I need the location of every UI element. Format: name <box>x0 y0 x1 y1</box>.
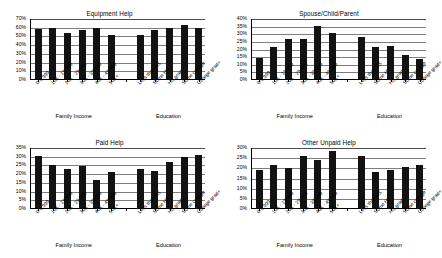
y-axis-tick-label: 10% <box>237 186 247 191</box>
chart-title: Other Unpaid Help <box>219 139 439 146</box>
chart-title: Equipment Help <box>0 10 219 17</box>
chart-title: Paid Help <box>0 139 219 146</box>
y-axis-tick-label: 20% <box>237 166 247 171</box>
y-axis-tick-label: 10% <box>16 69 26 74</box>
y-axis-tick-label: 30% <box>237 145 247 150</box>
y-axis-tick-label: 70% <box>16 16 26 21</box>
y-axis-tick-label: 40% <box>237 16 247 21</box>
y-axis-tick-label: 20% <box>16 172 26 177</box>
y-axis-tick-label: 30% <box>16 51 26 56</box>
y-axis-tick-label: 60% <box>16 25 26 30</box>
y-axis-tick-label: 40% <box>16 43 26 48</box>
y-axis-tick-label: 15% <box>237 176 247 181</box>
chart-panel: Other Unpaid Help0%5%10%15%20%25%30%0-9,… <box>219 129 439 258</box>
x-axis-labels: 0-9,99910K - 19,99920K - 29,99930K - 39,… <box>219 211 439 241</box>
y-axis-labels: 0%5%10%15%20%25%30%35%40% <box>219 19 249 80</box>
bar <box>35 29 42 79</box>
x-axis-group-title: Family Income <box>255 113 335 119</box>
y-axis-labels: 0%10%20%30%40%50%60%70% <box>0 19 28 80</box>
x-axis-group-title: Education <box>129 113 209 119</box>
chart-panel: Equipment Help0%10%20%30%40%50%60%70%0-9… <box>0 0 219 129</box>
x-axis-group-title: Education <box>350 113 430 119</box>
x-axis-labels: 0-9,99910K - 19,99920K - 29,99930K - 39,… <box>219 82 439 112</box>
x-axis-group-title: Education <box>350 242 430 248</box>
y-axis-tick-label: 10% <box>16 189 26 194</box>
y-axis-tick-label: 10% <box>237 62 247 67</box>
chart-title: Spouse/Child/Parent <box>219 10 439 17</box>
chart-panel: Paid Help0%5%10%15%20%25%30%35%0-9,99910… <box>0 129 219 258</box>
x-axis-group-title: Family Income <box>255 242 335 248</box>
bar <box>137 35 144 79</box>
x-axis-group-title: Family Income <box>34 242 114 248</box>
bar <box>49 28 56 79</box>
y-axis-tick-label: 5% <box>19 198 26 203</box>
y-axis-tick-label: 20% <box>16 60 26 65</box>
y-axis-labels: 0%5%10%15%20%25%30% <box>219 148 249 209</box>
bar <box>358 37 365 79</box>
y-axis-tick-label: 25% <box>16 163 26 168</box>
y-axis-tick-label: 35% <box>237 24 247 29</box>
y-axis-tick-label: 35% <box>16 145 26 150</box>
y-axis-tick-label: 5% <box>240 196 247 201</box>
bar <box>35 156 42 208</box>
x-axis-labels: 0-9,99910K - 19,99920K - 29,99930K - 39,… <box>0 211 219 241</box>
y-axis-tick-label: 5% <box>240 70 247 75</box>
y-axis-tick-label: 50% <box>16 34 26 39</box>
x-axis-labels: 0-9,99910K - 19,99920K - 29,99930K - 39,… <box>0 82 219 112</box>
y-axis-tick-label: 25% <box>237 156 247 161</box>
x-axis-group-title: Education <box>129 242 209 248</box>
y-axis-tick-label: 15% <box>16 180 26 185</box>
bar <box>358 156 365 208</box>
y-axis-tick-label: 30% <box>237 32 247 37</box>
y-axis-tick-label: 25% <box>237 39 247 44</box>
y-axis-tick-label: 30% <box>16 154 26 159</box>
y-axis-tick-label: 15% <box>237 55 247 60</box>
chart-panel: Spouse/Child/Parent0%5%10%15%20%25%30%35… <box>219 0 439 129</box>
x-axis-group-title: Family Income <box>34 113 114 119</box>
y-axis-tick-label: 20% <box>237 47 247 52</box>
y-axis-labels: 0%5%10%15%20%25%30%35% <box>0 148 28 209</box>
